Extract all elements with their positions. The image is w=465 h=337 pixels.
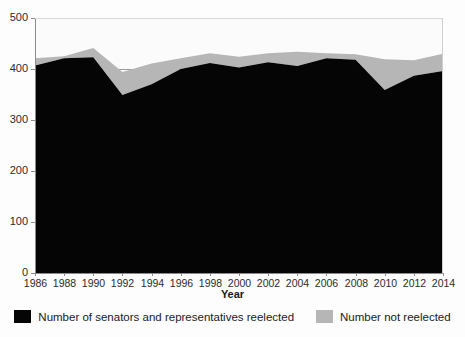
legend-item-reelected: Number of senators and representatives r… [14, 310, 294, 323]
series-areas [35, 48, 443, 273]
y-tick-marks [31, 19, 35, 274]
y-tick-label: 100 [0, 215, 28, 227]
legend-label-reelected: Number of senators and representatives r… [38, 311, 294, 323]
x-axis-title: Year [0, 288, 465, 300]
legend-swatch-reelected [14, 310, 31, 323]
legend-label-not-reelected: Number not reelected [340, 311, 451, 323]
y-tick-label: 200 [0, 164, 28, 176]
area-reelected [35, 57, 443, 273]
y-tick-label: 0 [0, 266, 28, 278]
y-tick-label: 500 [0, 11, 28, 23]
area-chart: 0100200300400500 19861988199019921994199… [0, 0, 465, 337]
legend-swatch-not-reelected [316, 310, 333, 323]
legend-item-not-reelected: Number not reelected [316, 310, 451, 323]
chart-legend: Number of senators and representatives r… [0, 310, 465, 323]
y-tick-label: 400 [0, 62, 28, 74]
y-tick-label: 300 [0, 113, 28, 125]
